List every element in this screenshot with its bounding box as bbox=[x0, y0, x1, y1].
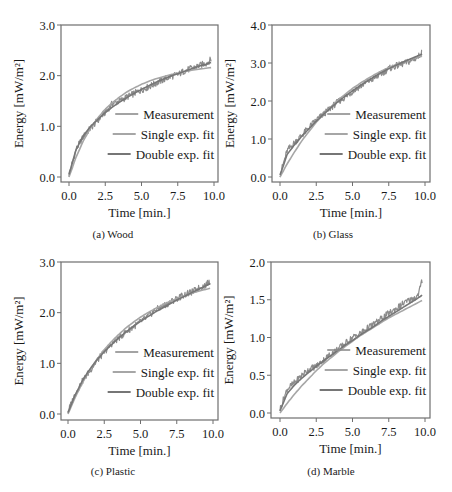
legend-entry: Measurement bbox=[115, 345, 214, 360]
x-axis-label: Time [min.] bbox=[319, 441, 381, 456]
y-tick-label: 3.0 bbox=[250, 57, 266, 71]
y-tick-label: 0.0 bbox=[249, 407, 265, 421]
chart-panel-plastic: 0.01.02.03.00.02.55.07.510.0Time [min.]E… bbox=[0, 246, 226, 492]
y-tick-label: 1.5 bbox=[249, 293, 265, 307]
y-tick-label: 3.0 bbox=[39, 19, 55, 33]
y-tick-label: 0.0 bbox=[250, 171, 266, 185]
x-tick-label: 7.5 bbox=[170, 189, 186, 203]
y-tick-label: 1.0 bbox=[250, 133, 266, 147]
chart-plot-wood: 0.01.02.03.00.02.55.07.510.0Time [min.]E… bbox=[0, 0, 226, 246]
x-tick-label: 0.0 bbox=[272, 189, 288, 203]
legend-entry: Double exp. fit bbox=[108, 147, 215, 162]
caption-marble: (d) Marble bbox=[218, 465, 444, 477]
x-tick-label: 5.0 bbox=[345, 189, 361, 203]
y-axis-label: Energy [mW/m²] bbox=[221, 295, 236, 384]
legend-entry: Double exp. fit bbox=[108, 385, 215, 400]
x-axis-label: Time [min.] bbox=[320, 205, 382, 220]
chart-panel-glass: 0.01.02.03.04.00.02.55.07.510.0Time [min… bbox=[226, 0, 452, 246]
x-tick-label: 5.0 bbox=[133, 427, 149, 441]
legend-label: Double exp. fit bbox=[348, 383, 427, 398]
legend-label: Single exp. fit bbox=[141, 127, 215, 142]
y-tick-label: 2.0 bbox=[250, 95, 266, 109]
y-tick-label: 1.0 bbox=[249, 331, 265, 345]
x-tick-label: 10.0 bbox=[203, 189, 225, 203]
y-tick-label: 1.0 bbox=[39, 357, 55, 371]
legend-label: Double exp. fit bbox=[136, 147, 215, 162]
x-tick-label: 0.0 bbox=[60, 427, 76, 441]
legend-entry: Double exp. fit bbox=[320, 147, 427, 162]
y-tick-label: 3.0 bbox=[39, 256, 55, 270]
legend-label: Single exp. fit bbox=[353, 363, 427, 378]
chart-plot-plastic: 0.01.02.03.00.02.55.07.510.0Time [min.]E… bbox=[0, 246, 226, 492]
legend-label: Single exp. fit bbox=[141, 365, 215, 380]
y-tick-label: 0.0 bbox=[39, 171, 55, 185]
x-tick-label: 2.5 bbox=[308, 189, 324, 203]
y-tick-label: 4.0 bbox=[250, 19, 266, 33]
legend-entry: Measurement bbox=[327, 107, 426, 122]
x-tick-label: 0.0 bbox=[61, 189, 77, 203]
legend-label: Measurement bbox=[355, 343, 426, 358]
legend-label: Measurement bbox=[143, 107, 214, 122]
legend-label: Double exp. fit bbox=[136, 385, 215, 400]
y-tick-label: 2.0 bbox=[39, 306, 55, 320]
legend-entry: Single exp. fit bbox=[325, 363, 427, 378]
legend-entry: Single exp. fit bbox=[113, 127, 215, 142]
x-tick-label: 0.0 bbox=[272, 425, 288, 439]
legend-label: Single exp. fit bbox=[353, 127, 427, 142]
caption-glass: (b) Glass bbox=[220, 228, 446, 240]
x-tick-label: 5.0 bbox=[345, 425, 361, 439]
x-tick-label: 2.5 bbox=[96, 427, 112, 441]
legend-entry: Single exp. fit bbox=[325, 127, 427, 142]
chart-plot-glass: 0.01.02.03.04.00.02.55.07.510.0Time [min… bbox=[226, 0, 452, 246]
y-tick-label: 2.0 bbox=[39, 69, 55, 83]
x-tick-label: 10.0 bbox=[414, 189, 436, 203]
x-tick-label: 7.5 bbox=[169, 427, 185, 441]
legend-entry: Double exp. fit bbox=[320, 383, 427, 398]
caption-wood: (a) Wood bbox=[0, 228, 226, 240]
x-tick-label: 7.5 bbox=[381, 425, 397, 439]
legend-entry: Single exp. fit bbox=[113, 365, 215, 380]
y-tick-label: 0.0 bbox=[39, 408, 55, 422]
y-tick-label: 2.0 bbox=[249, 256, 265, 270]
x-tick-label: 10.0 bbox=[202, 427, 224, 441]
y-axis-label: Energy [mW/m²] bbox=[222, 59, 237, 148]
x-tick-label: 2.5 bbox=[97, 189, 113, 203]
y-axis-label: Energy [mW/m²] bbox=[11, 296, 26, 385]
y-tick-label: 0.5 bbox=[249, 369, 265, 383]
x-tick-label: 7.5 bbox=[381, 189, 397, 203]
chart-panel-marble: 0.00.51.01.52.00.02.55.07.510.0Time [min… bbox=[226, 246, 452, 492]
legend-label: Double exp. fit bbox=[348, 147, 427, 162]
y-tick-label: 1.0 bbox=[39, 120, 55, 134]
legend-label: Measurement bbox=[143, 345, 214, 360]
x-axis-label: Time [min.] bbox=[108, 443, 170, 458]
x-axis-label: Time [min.] bbox=[108, 205, 170, 220]
caption-plastic: (c) Plastic bbox=[0, 465, 226, 477]
chart-plot-marble: 0.00.51.01.52.00.02.55.07.510.0Time [min… bbox=[226, 246, 452, 492]
x-tick-label: 5.0 bbox=[134, 189, 150, 203]
x-tick-label: 10.0 bbox=[414, 425, 436, 439]
x-tick-label: 2.5 bbox=[308, 425, 324, 439]
chart-panel-wood: 0.01.02.03.00.02.55.07.510.0Time [min.]E… bbox=[0, 0, 226, 246]
legend-entry: Measurement bbox=[115, 107, 214, 122]
legend-label: Measurement bbox=[355, 107, 426, 122]
y-axis-label: Energy [mW/m²] bbox=[11, 59, 26, 148]
